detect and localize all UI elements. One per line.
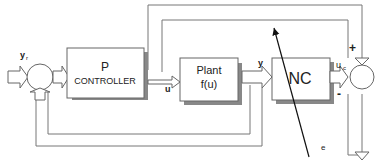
sum-junction-left <box>27 64 53 90</box>
p-controller-subtitle: CONTROLLER <box>74 76 136 86</box>
diagram-canvas: P CONTROLLER Plant f(u) NC y r u y u c e… <box>0 0 385 167</box>
label-e: e <box>321 143 326 152</box>
label-y: y <box>258 58 263 68</box>
error-line <box>348 94 362 155</box>
svg-text:r: r <box>26 55 28 61</box>
label-yr: y <box>20 50 25 60</box>
nc-control-block-diagram: P CONTROLLER Plant f(u) NC y r u y u c e… <box>0 0 385 167</box>
p-controller-block <box>67 48 148 100</box>
p-controller-title: P <box>101 60 109 74</box>
label-u: u <box>165 84 171 94</box>
svg-text:c: c <box>343 65 346 71</box>
plant-title: Plant <box>196 64 221 76</box>
input-arrow <box>8 66 28 88</box>
sign-minus: - <box>337 87 341 101</box>
plant-subtitle: f(u) <box>201 78 218 90</box>
sign-plus: + <box>349 41 356 55</box>
nc-title: NC <box>288 70 311 87</box>
label-uc: u <box>336 60 341 70</box>
sum-junction-right <box>350 65 374 89</box>
